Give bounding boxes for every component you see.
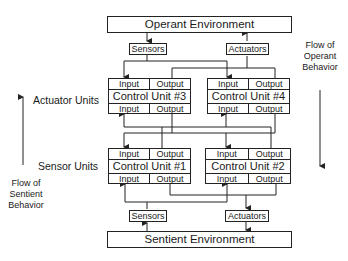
bottom-actuators-box: Actuators [225, 210, 269, 222]
top-actuators-box: Actuators [226, 43, 269, 55]
control-unit-4: InputOutput Control Unit #4 InputOutput [207, 78, 290, 114]
cu2-title: Control Unit #2 [206, 160, 290, 174]
sensor-units-label: Sensor Units [38, 160, 98, 172]
cu1-bottom-output: Output [149, 174, 190, 184]
cu2-top-output: Output [248, 149, 291, 159]
top-sensors-box: Sensors [129, 43, 167, 55]
cu2-top-input: Input [206, 149, 248, 159]
cu4-title: Control Unit #4 [208, 90, 289, 104]
flow-operant-label: Flow of Operant Behavior [298, 40, 342, 73]
control-unit-2: InputOutput Control Unit #2 InputOutput [205, 148, 291, 184]
control-unit-1: InputOutput Control Unit #1 InputOutput [108, 148, 191, 184]
operant-environment-box: Operant Environment [107, 16, 292, 33]
cu2-bottom-input: Input [206, 174, 248, 184]
flow-sentient-label: Flow of Sentient Behavior [6, 178, 46, 211]
control-unit-3: InputOutput Control Unit #3 InputOutput [108, 78, 191, 114]
sentient-environment-label: Sentient Environment [145, 233, 255, 245]
bottom-actuators-label: Actuators [228, 211, 266, 221]
cu3-title: Control Unit #3 [109, 90, 190, 104]
cu1-top-input: Input [109, 149, 149, 159]
cu1-title: Control Unit #1 [109, 160, 190, 174]
bottom-sensors-label: Sensors [131, 211, 164, 221]
sentient-environment-box: Sentient Environment [107, 231, 292, 248]
cu4-top-input: Input [208, 79, 248, 89]
cu3-top-input: Input [109, 79, 149, 89]
cu3-top-output: Output [149, 79, 190, 89]
cu3-bottom-output: Output [149, 104, 190, 114]
cu1-top-output: Output [149, 149, 190, 159]
cu4-bottom-input: Input [208, 104, 248, 114]
bottom-sensors-box: Sensors [129, 210, 167, 222]
operant-environment-label: Operant Environment [145, 18, 254, 30]
top-actuators-label: Actuators [228, 44, 266, 54]
top-sensors-label: Sensors [131, 44, 164, 54]
cu4-top-output: Output [248, 79, 289, 89]
cu4-bottom-output: Output [248, 104, 289, 114]
actuator-units-label: Actuator Units [33, 94, 99, 106]
cu2-bottom-output: Output [248, 174, 291, 184]
connection-wires [0, 0, 348, 261]
cu3-bottom-input: Input [109, 104, 149, 114]
cu1-bottom-input: Input [109, 174, 149, 184]
